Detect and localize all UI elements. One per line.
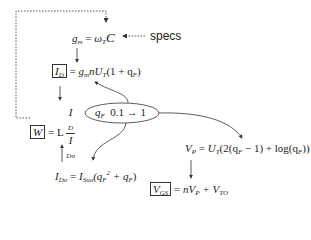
qf-range-label: qF 0.1 → 1 — [95, 107, 146, 120]
vp-equation: VP = UT(2(qF − 1) + log(qF)) — [185, 143, 310, 156]
id-boxed-variable: ID — [52, 64, 67, 78]
vgs-equation: VGS = nVP + VTO — [150, 184, 228, 197]
gm-equation: gm = ωTC — [72, 31, 115, 46]
specs-label: specs — [150, 29, 181, 43]
vgs-boxed-variable: VGS — [150, 182, 171, 196]
w-boxed-variable: W — [30, 125, 45, 139]
ido-equation: IDo = ISuo(qF2 + qF) — [55, 170, 136, 184]
w-equation: W = L ID IDo — [30, 106, 75, 161]
w-fraction: ID IDo — [66, 106, 75, 161]
id-equation: ID = gmnUT(1 + qF) — [52, 66, 141, 79]
